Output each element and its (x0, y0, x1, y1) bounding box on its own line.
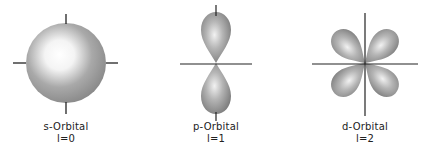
p-orbital-name: p-Orbital (156, 121, 276, 133)
p-orbital-lower-lobe (201, 63, 231, 114)
p-orbital-label: p-Orbital l=1 (156, 121, 276, 145)
s-orbital (13, 14, 118, 114)
d-orbital-label: d-Orbital l=2 (305, 121, 425, 145)
d-orbital-name: d-Orbital (305, 121, 425, 133)
d-orbital (312, 13, 418, 116)
p-orbital-upper-lobe (201, 12, 231, 63)
d-orbital-axes (312, 13, 418, 116)
p-orbital-quantum-number: l=1 (156, 133, 276, 145)
s-orbital-sphere (26, 23, 106, 103)
s-orbital-name: s-Orbital (6, 121, 126, 133)
d-orbital-quantum-number: l=2 (305, 133, 425, 145)
p-orbital (180, 5, 252, 121)
s-orbital-label: s-Orbital l=0 (6, 121, 126, 145)
s-orbital-quantum-number: l=0 (6, 133, 126, 145)
